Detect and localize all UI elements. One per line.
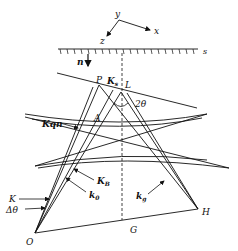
delta-theta-label: Δθ <box>5 205 18 215</box>
point-G-label: G <box>130 225 137 235</box>
vector-Ks-label: Ks <box>106 76 119 87</box>
diffracted-vectors <box>99 85 198 209</box>
axis-z-label: z <box>99 36 105 46</box>
reciprocal-vector-g <box>35 209 198 233</box>
surface-label: s <box>203 47 207 56</box>
coordinate-axes <box>107 20 150 36</box>
vector-KB-label: KB <box>96 176 110 187</box>
tangent-line <box>57 73 197 108</box>
point-O-label: O <box>26 237 34 247</box>
axis-x-label: x <box>154 26 159 36</box>
point-L-label: L <box>124 80 131 90</box>
point-P-label: P <box>95 75 103 85</box>
angle-2theta-label: 2θ <box>134 99 147 109</box>
point-A-label: A <box>93 113 101 123</box>
vector-kg-label: kg <box>136 191 146 203</box>
normal-label: n <box>77 57 84 67</box>
vector-Kqn-label: Kqn <box>41 119 63 129</box>
vector-k0-label: k0 <box>89 190 100 201</box>
vector-K-label: K <box>8 194 17 204</box>
diffraction-geometry-diagram: y x z s n <box>0 0 238 251</box>
point-H-label: H <box>201 207 210 217</box>
axis-y-label: y <box>114 9 121 19</box>
crystal-surface <box>58 49 198 54</box>
incident-vectors <box>35 85 121 233</box>
